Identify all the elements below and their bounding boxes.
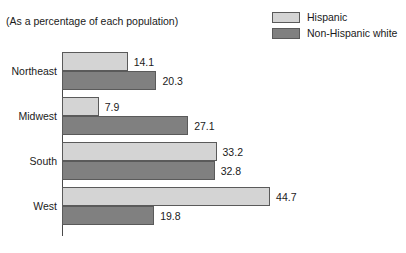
bar-value-label: 32.8 [221,165,241,177]
bar-south-hispanic [62,142,217,161]
legend-label-non-hispanic-white: Non-Hispanic white [307,27,397,39]
legend-swatch-non-hispanic-white [272,28,300,39]
category-label-northeast: Northeast [11,65,57,77]
bar-row: 14.1 [62,52,154,71]
bar-midwest-hispanic [62,97,99,116]
bar-row: 19.8 [62,206,181,225]
legend-item-non-hispanic-white: Non-Hispanic white [272,26,397,40]
bar-midwest-non-hispanic-white [62,116,188,135]
bar-value-label: 7.9 [105,101,120,113]
bar-northeast-hispanic [62,52,128,71]
bar-value-label: 44.7 [276,191,296,203]
bar-row: 44.7 [62,187,297,206]
chart-subtitle: (As a percentage of each population) [6,15,178,28]
bar-south-non-hispanic-white [62,161,215,180]
category-label-south: South [30,155,57,167]
category-label-west: West [33,200,57,212]
bar-group: Northeast14.120.3 [0,52,406,90]
bar-row: 27.1 [62,116,215,135]
bar-west-non-hispanic-white [62,206,154,225]
category-label-midwest: Midwest [18,110,57,122]
bar-row: 20.3 [62,71,183,90]
bar-value-label: 27.1 [194,120,214,132]
bar-group: South33.232.8 [0,142,406,180]
bar-west-hispanic [62,187,270,206]
bar-value-label: 20.3 [162,75,182,87]
bar-northeast-non-hispanic-white [62,71,156,90]
bar-row: 33.2 [62,142,243,161]
chart-legend: Hispanic Non-Hispanic white [272,10,397,42]
legend-label-hispanic: Hispanic [307,11,347,23]
bar-group: West44.719.8 [0,187,406,225]
bar-group: Midwest7.927.1 [0,97,406,135]
bar-value-label: 14.1 [134,56,154,68]
bar-value-label: 33.2 [223,146,243,158]
bar-value-label: 19.8 [160,210,180,222]
bar-row: 7.9 [62,97,119,116]
bar-row: 32.8 [62,161,241,180]
bar-chart: (As a percentage of each population) His… [0,0,406,253]
legend-swatch-hispanic [272,12,300,23]
legend-item-hispanic: Hispanic [272,10,397,24]
